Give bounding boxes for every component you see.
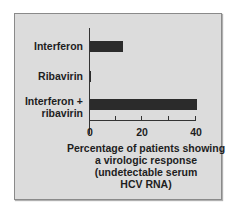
category-label-combined: Interferon + ribavirin (17, 95, 83, 119)
category-label-ribavirin: Ribavirin (17, 70, 83, 82)
x-tick-label-40: 40 (181, 126, 211, 138)
x-tick-label-20: 20 (127, 126, 157, 138)
category-label-line2: ribavirin (17, 107, 83, 119)
x-axis-title-line1: Percentage of patients showing (61, 142, 231, 154)
bar-interferon-ribavirin (90, 99, 197, 110)
x-axis-title-line2: a virologic response (61, 154, 231, 166)
category-label-interferon: Interferon (17, 40, 83, 52)
x-tick-label-0: 0 (75, 126, 105, 138)
x-axis-title: Percentage of patients showing a virolog… (61, 142, 231, 190)
x-tick-20 (141, 116, 142, 121)
x-tick-40 (195, 116, 196, 121)
x-axis-title-line4: HCV RNA) (61, 178, 231, 190)
category-label-line1: Interferon + (17, 95, 83, 107)
chart-panel: Interferon Ribavirin Interferon + ribavi… (14, 13, 222, 200)
bar-ribavirin (90, 71, 91, 82)
x-axis-title-line3: (undetectable serum (61, 166, 231, 178)
x-tick-30 (168, 116, 169, 121)
x-tick-10 (115, 116, 116, 121)
bar-interferon (90, 41, 123, 52)
x-axis (89, 120, 196, 121)
